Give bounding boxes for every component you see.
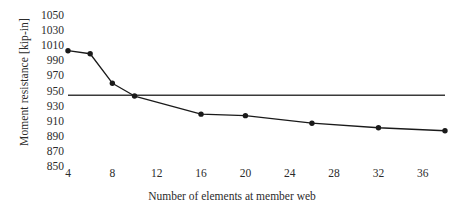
chart-figure: Moment resistance [kip-in] Number of ele… xyxy=(0,0,464,214)
data-point-marker xyxy=(442,128,447,133)
data-point-marker xyxy=(243,113,248,118)
data-point-marker xyxy=(110,80,115,85)
data-point-marker xyxy=(65,48,70,53)
data-point-marker xyxy=(198,111,203,116)
series-line xyxy=(68,51,445,131)
plot-svg xyxy=(0,0,464,214)
data-point-marker xyxy=(87,51,92,56)
data-series-group xyxy=(65,48,447,133)
plot-area xyxy=(0,0,464,214)
data-point-marker xyxy=(309,121,314,126)
data-point-marker xyxy=(376,125,381,130)
data-point-marker xyxy=(132,93,137,98)
